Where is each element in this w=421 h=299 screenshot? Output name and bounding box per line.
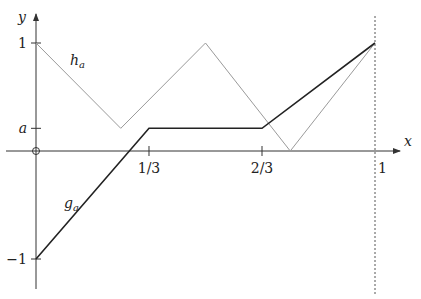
y-tick-label: a (19, 120, 27, 136)
y-tick-label: 1 (18, 35, 27, 51)
x-axis-label: x (404, 133, 412, 149)
function-h-label: ha (70, 52, 85, 70)
x-tick-label: 1/3 (138, 160, 161, 176)
x-tick-label: 2/3 (251, 160, 274, 176)
x-tick-label: 1 (378, 160, 387, 176)
function-g-label: ga (64, 195, 79, 213)
function-h-line (36, 43, 375, 151)
y-axis-label: y (17, 9, 27, 25)
y-tick-label: −1 (6, 251, 27, 267)
plot-area: 1/32/311a−1 x y ha ga (0, 0, 421, 299)
